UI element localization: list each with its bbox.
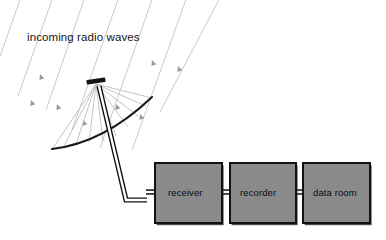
incoming-waves-label: incoming radio waves <box>27 31 140 43</box>
recorder-box-label: recorder <box>240 187 276 198</box>
data-room-box-label: data room <box>313 187 357 198</box>
receiver-box-label: receiver <box>168 187 203 198</box>
diagram-canvas: incoming radio waves receiver recorder d… <box>0 0 386 240</box>
